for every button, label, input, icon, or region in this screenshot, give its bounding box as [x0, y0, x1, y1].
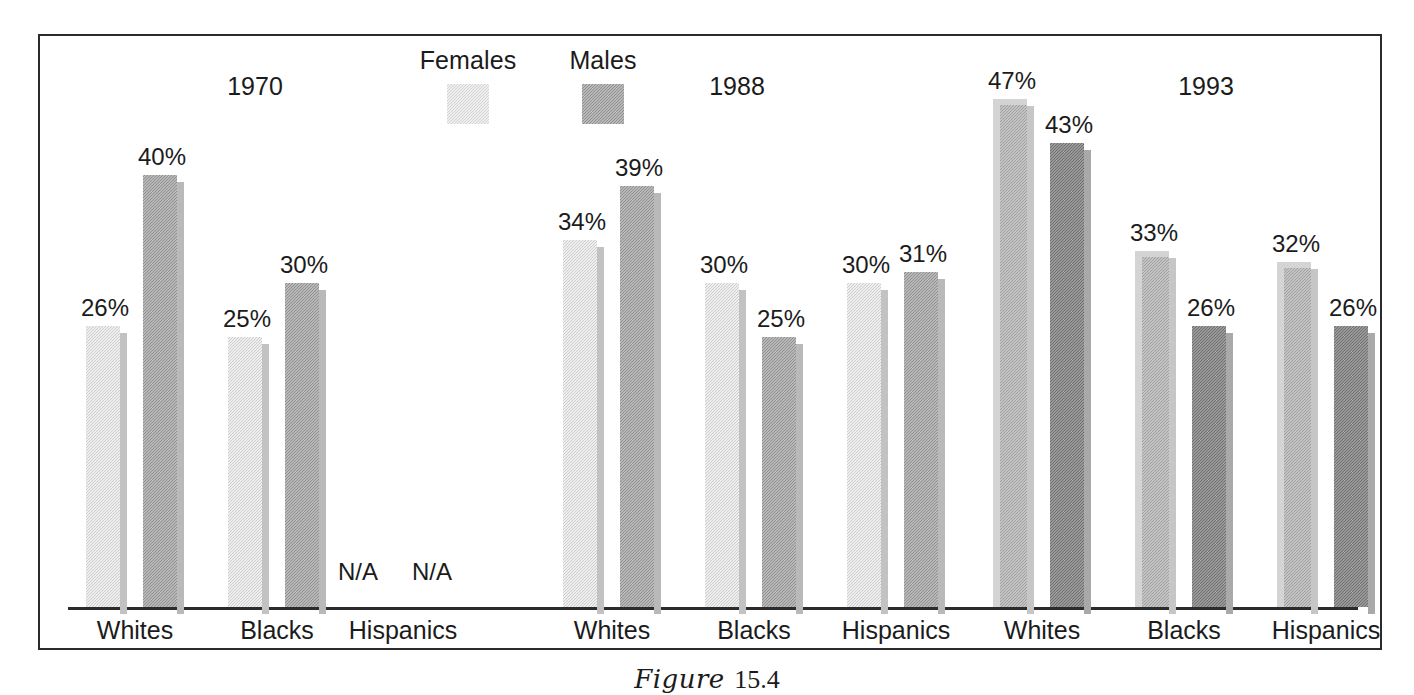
bar-1970-whites-males: 40% [143, 175, 184, 607]
bar-value-label: 31% [888, 240, 958, 268]
bar-face [762, 337, 796, 607]
bar-value-label: 25% [746, 305, 816, 333]
bar-face [86, 326, 120, 607]
bar-1988-whites-females: 34% [563, 240, 604, 607]
bar-value-label: 47% [977, 67, 1047, 95]
bar-face [563, 240, 597, 607]
bar-face [620, 186, 654, 607]
bar-side-shadow [1084, 150, 1091, 614]
cat-label-1988-hispanics: Hispanics [821, 616, 971, 645]
plot-area: Females Males 1970 1988 1993 26% [38, 34, 1382, 650]
bar-side-shadow [1226, 333, 1233, 614]
bar-1993-whites-females: 47% [993, 99, 1034, 607]
bar-face [993, 99, 1027, 607]
bar-side-shadow [1368, 333, 1375, 614]
legend-swatch-males [582, 84, 624, 124]
legend-label-females: Females [408, 46, 528, 75]
bar-1993-hispanics-males: 26% [1334, 326, 1375, 607]
bar-value-label: 30% [269, 251, 339, 279]
bar-face [1277, 262, 1311, 607]
bar-face [847, 283, 881, 607]
bar-value-label: 26% [70, 294, 140, 322]
bar-side-shadow [881, 290, 888, 614]
bar-value-label: 34% [547, 208, 617, 236]
bar-side-shadow [739, 290, 746, 614]
figure-caption-word: Figure [634, 664, 725, 694]
bar-1988-blacks-females: 30% [705, 283, 746, 607]
bar-face [285, 283, 319, 607]
cat-label-1988-whites: Whites [537, 616, 687, 645]
bar-side-shadow [319, 290, 326, 614]
cat-label-1993-hispanics: Hispanics [1251, 616, 1401, 645]
bar-1970-blacks-females: 25% [228, 337, 269, 607]
bar-side-shadow [120, 333, 127, 614]
bar-1993-blacks-females: 33% [1135, 251, 1176, 607]
na-1970-hispanics-males: N/A [412, 558, 452, 586]
bar-1993-hispanics-females: 32% [1277, 262, 1318, 607]
year-title-1988: 1988 [677, 72, 797, 101]
bar-1993-blacks-males: 26% [1192, 326, 1233, 607]
bar-face [1192, 326, 1226, 607]
bar-1988-whites-males: 39% [620, 186, 661, 607]
legend-entry-males: Males [548, 46, 658, 124]
bar-face [1135, 251, 1169, 607]
bar-1988-hispanics-males: 31% [904, 272, 945, 607]
bar-side-shadow [1169, 258, 1176, 614]
bar-side-shadow [1311, 269, 1318, 614]
bar-face [904, 272, 938, 607]
cat-label-1988-blacks: Blacks [679, 616, 829, 645]
figure-caption: Figure 15.4 [0, 660, 1414, 695]
na-1970-hispanics-females: N/A [338, 558, 378, 586]
bar-side-shadow [177, 182, 184, 614]
bar-value-label: 32% [1261, 230, 1331, 258]
legend-swatch-females [447, 84, 489, 124]
bar-value-label: 33% [1119, 219, 1189, 247]
cat-label-1970-whites: Whites [60, 616, 210, 645]
bar-value-label: 26% [1318, 294, 1388, 322]
bar-value-label: 39% [604, 154, 674, 182]
bar-face [705, 283, 739, 607]
bar-1988-hispanics-females: 30% [847, 283, 888, 607]
legend-entry-females: Females [408, 46, 528, 124]
bar-side-shadow [796, 344, 803, 614]
bar-1988-blacks-males: 25% [762, 337, 803, 607]
year-title-1970: 1970 [195, 72, 315, 101]
bar-side-shadow [654, 193, 661, 614]
bar-1993-whites-males: 43% [1050, 143, 1091, 607]
bar-face [228, 337, 262, 607]
bar-face [1050, 143, 1084, 607]
bar-1970-whites-females: 26% [86, 326, 127, 607]
bar-value-label: 30% [689, 251, 759, 279]
cat-label-1993-blacks: Blacks [1109, 616, 1259, 645]
bar-value-label: 25% [212, 305, 282, 333]
figure-caption-number: 15.4 [734, 665, 780, 694]
cat-label-1970-hispanics: Hispanics [328, 616, 478, 645]
cat-label-1993-whites: Whites [967, 616, 1117, 645]
bar-face [1334, 326, 1368, 607]
chart-legend: Females Males [408, 46, 678, 132]
bar-value-label: 40% [127, 143, 197, 171]
bar-face [143, 175, 177, 607]
bar-side-shadow [262, 344, 269, 614]
bar-side-shadow [938, 279, 945, 614]
legend-label-males: Males [548, 46, 658, 75]
bar-value-label: 26% [1176, 294, 1246, 322]
bar-side-shadow [597, 247, 604, 614]
year-title-1993: 1993 [1146, 72, 1266, 101]
bar-1970-blacks-males: 30% [285, 283, 326, 607]
bar-side-shadow [1027, 106, 1034, 614]
bar-value-label: 43% [1034, 111, 1104, 139]
